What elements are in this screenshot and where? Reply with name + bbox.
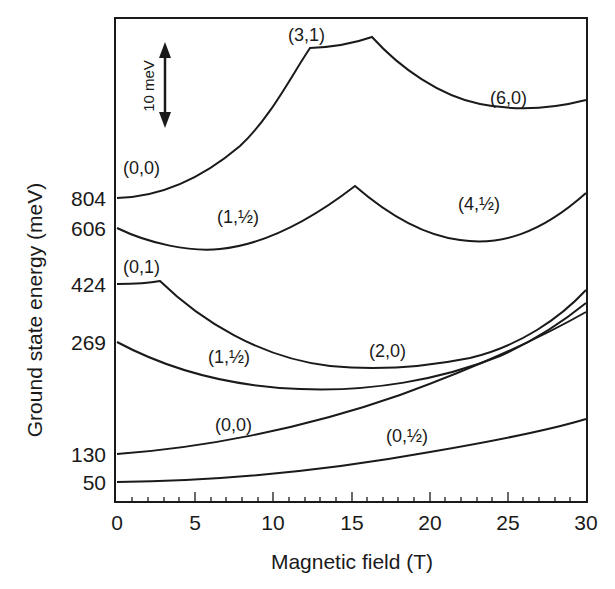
curve-label: (0,0) xyxy=(215,415,252,435)
scale-bar-label: 10 meV xyxy=(140,60,157,112)
x-axis-ticks xyxy=(132,492,570,502)
curve-label: (0,½) xyxy=(386,426,428,446)
x-tick-label: 25 xyxy=(496,511,519,534)
curve-269 xyxy=(117,303,586,389)
curve-labels: (0,0) (3,1) (6,0) (1,½) (4,½) (0,1) (2,0… xyxy=(123,25,527,446)
curve-label: (1,½) xyxy=(217,207,259,227)
x-tick-label: 0 xyxy=(111,511,123,534)
curve-50 xyxy=(117,419,586,482)
x-tick-label: 30 xyxy=(574,511,597,534)
y-tick-label: 130 xyxy=(71,443,106,466)
curve-label: (0,1) xyxy=(123,257,160,277)
energy-chart: 0 5 10 15 20 25 30 Magnetic field (T) 80… xyxy=(0,0,615,589)
x-tick-label: 5 xyxy=(189,511,201,534)
curve-label: (2,0) xyxy=(369,341,406,361)
y-tick-label: 50 xyxy=(83,471,106,494)
curve-804 xyxy=(117,37,586,198)
curve-label: (0,0) xyxy=(123,158,160,178)
curve-label: (3,1) xyxy=(288,25,325,45)
y-axis-title: Ground state energy (meV) xyxy=(23,183,46,437)
curve-label: (6,0) xyxy=(490,88,527,108)
x-tick-label: 20 xyxy=(418,511,441,534)
scale-bar: 10 meV xyxy=(140,42,171,128)
arrow-down-icon xyxy=(159,112,171,128)
x-axis-tick-labels: 0 5 10 15 20 25 30 xyxy=(111,511,598,534)
arrow-up-icon xyxy=(159,42,171,58)
curve-606 xyxy=(117,186,586,250)
curve-130 xyxy=(117,312,586,454)
y-tick-label: 424 xyxy=(71,273,106,296)
x-tick-label: 10 xyxy=(261,511,284,534)
y-tick-label: 269 xyxy=(71,331,106,354)
x-axis-title: Magnetic field (T) xyxy=(271,550,433,573)
y-tick-label: 804 xyxy=(71,187,106,210)
y-axis-tick-labels: 804 606 424 269 130 50 xyxy=(71,187,106,494)
curve-424 xyxy=(117,281,586,368)
x-tick-label: 15 xyxy=(340,511,363,534)
curve-label: (4,½) xyxy=(458,194,500,214)
y-tick-label: 606 xyxy=(71,217,106,240)
curve-label: (1,½) xyxy=(208,347,250,367)
